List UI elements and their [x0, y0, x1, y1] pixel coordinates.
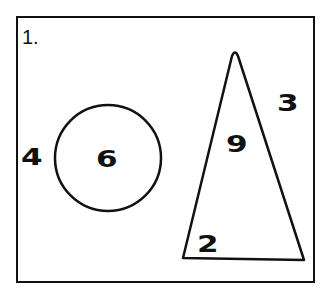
- panel-number: 1.: [22, 27, 39, 47]
- label-triangle-outside: 3: [277, 92, 299, 115]
- shapes-layer: [0, 0, 325, 292]
- label-outside-left: 4: [21, 146, 43, 169]
- label-triangle-upper: 9: [226, 133, 248, 156]
- label-triangle-lower: 2: [197, 233, 219, 256]
- label-circle-inside: 6: [96, 148, 118, 171]
